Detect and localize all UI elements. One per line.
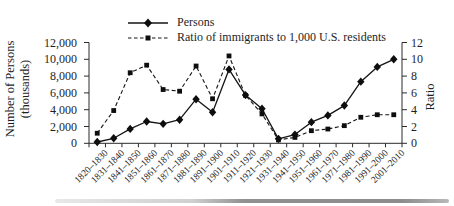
- ratio-data-marker: [210, 96, 215, 101]
- legend: Persons Ratio of immigrants to 1,000 U.S…: [127, 16, 386, 44]
- y-axis-left-tick-label: 6,000: [50, 86, 77, 100]
- ratio-data-marker: [128, 70, 133, 75]
- ratio-line-swatch: [127, 32, 169, 44]
- y-axis-left-tick-label: 12,000: [44, 36, 77, 50]
- persons-data-marker: [159, 120, 166, 128]
- ratio-data-marker: [111, 108, 116, 113]
- square-marker-icon: [146, 35, 151, 40]
- persons-series-line: [97, 59, 394, 142]
- y-axis-left-tick-label: 0: [71, 136, 77, 150]
- immigration-chart-figure: Number of Persons (thousands) Ratio 12,0…: [0, 0, 454, 206]
- y-axis-right-tick-label: 2: [411, 120, 417, 134]
- persons-data-marker: [110, 134, 117, 142]
- y-axis-right-tick-label: 0: [411, 136, 417, 150]
- ratio-data-marker: [276, 138, 281, 143]
- persons-data-marker: [390, 55, 397, 63]
- legend-label-ratio: Ratio of immigrants to 1,000 U.S. reside…: [177, 30, 386, 45]
- persons-line-swatch: [127, 17, 169, 29]
- y-axis-left-tick-label: 4,000: [50, 103, 77, 117]
- y-axis-right-tick-label: 6: [411, 86, 417, 100]
- legend-item-ratio: Ratio of immigrants to 1,000 U.S. reside…: [127, 31, 386, 44]
- y-axis-left-tick-label: 2,000: [50, 120, 77, 134]
- persons-data-marker: [143, 117, 150, 125]
- y-axis-right-title: Ratio: [423, 83, 437, 110]
- legend-item-persons: Persons: [127, 16, 386, 29]
- y-axis-left-title-line2: (thousands): [18, 60, 32, 118]
- diamond-marker-icon: [144, 18, 152, 27]
- page-divider-rule: [55, 199, 449, 203]
- persons-data-marker: [94, 138, 101, 146]
- ratio-data-marker: [358, 115, 363, 120]
- ratio-data-marker: [95, 131, 100, 136]
- y-axis-right-tick-label: 4: [411, 103, 417, 117]
- persons-data-marker: [308, 118, 315, 126]
- ratio-data-marker: [375, 112, 380, 117]
- ratio-data-marker: [309, 128, 314, 133]
- ratio-data-marker: [391, 112, 396, 117]
- ratio-data-marker: [342, 123, 347, 128]
- y-axis-right-tick-label: 8: [411, 69, 417, 83]
- ratio-data-marker: [194, 64, 199, 69]
- ratio-data-marker: [293, 135, 298, 140]
- ratio-data-marker: [144, 63, 149, 68]
- ratio-data-marker: [161, 87, 166, 92]
- ratio-data-marker: [260, 112, 265, 117]
- y-axis-right-tick-label: 10: [411, 52, 423, 66]
- ratio-data-marker: [243, 93, 248, 98]
- y-axis-right-tick-label: 12: [411, 36, 423, 50]
- y-axis-left-title-line1: Number of Persons: [3, 41, 17, 138]
- persons-data-marker: [126, 125, 133, 133]
- ratio-data-marker: [325, 127, 330, 132]
- legend-label-persons: Persons: [177, 15, 214, 30]
- ratio-data-marker: [227, 54, 232, 59]
- ratio-data-marker: [177, 89, 182, 94]
- y-axis-left-tick-label: 10,000: [44, 52, 77, 66]
- y-axis-left-tick-label: 8,000: [50, 69, 77, 83]
- persons-data-marker: [324, 111, 331, 119]
